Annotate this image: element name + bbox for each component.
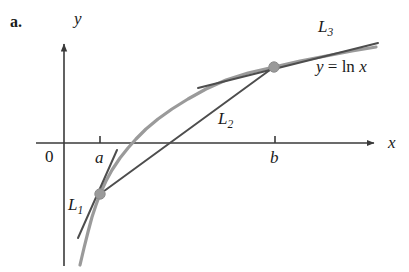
graph-canvas — [0, 0, 409, 272]
label-l3-subscript: 3 — [327, 26, 333, 38]
tick-label-a: a — [95, 149, 104, 166]
point-b-marker — [269, 62, 279, 72]
label-l3: L3 — [318, 18, 333, 35]
function-lhs: y — [316, 57, 324, 76]
function-equation-label: y = ln x — [316, 58, 367, 75]
figure-container: a. y x 0 a b L1 L2 L3 y = ln x — [0, 0, 409, 272]
function-operator: ln — [342, 57, 355, 76]
label-l2: L2 — [218, 110, 233, 127]
label-l1: L1 — [68, 196, 83, 213]
origin-label: 0 — [45, 148, 54, 165]
tick-label-b: b — [270, 149, 279, 166]
label-l1-subscript: 1 — [77, 204, 83, 216]
x-axis-label: x — [388, 134, 396, 151]
y-axis-label: y — [74, 10, 82, 27]
secant-line-l2 — [100, 67, 274, 194]
point-a-marker — [95, 189, 105, 199]
function-argument: x — [359, 57, 367, 76]
part-label: a. — [10, 14, 22, 30]
function-equals: = — [328, 57, 338, 76]
label-l2-subscript: 2 — [227, 118, 233, 130]
